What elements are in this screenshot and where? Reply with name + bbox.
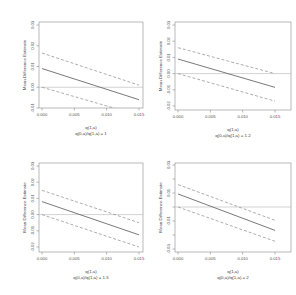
confidence-bound-line xyxy=(42,53,139,85)
y-axis-label: Mean Difference Estimate xyxy=(22,39,27,90)
x-tick-label: 0.015 xyxy=(270,114,281,119)
confidence-bound-line xyxy=(178,48,275,74)
x-tick-label: 0.005 xyxy=(69,112,80,117)
y-tick-label: 0.03 xyxy=(30,161,35,170)
y-tick-label: -0.01 xyxy=(166,216,171,226)
x-tick-label: 0.000 xyxy=(37,112,48,117)
x-tick-label: 0.015 xyxy=(134,112,145,117)
y-tick-label: 0.01 xyxy=(166,188,171,197)
x-tick-label: 0.005 xyxy=(205,256,216,261)
y-tick-label: 0.01 xyxy=(30,194,35,203)
series-lines xyxy=(178,185,275,242)
panel-subtitle: q(0,a)/q(1,a) = 1.5 xyxy=(73,275,109,280)
figure-grid: 0.030.020.010.00-0.01 0.0000.0050.0100.0… xyxy=(0,0,296,295)
x-tick-label: 0.000 xyxy=(173,114,184,119)
y-tick-label: 0.02 xyxy=(30,41,35,50)
x-tick-label: 0.000 xyxy=(37,256,48,261)
y-tick-label: 0.02 xyxy=(166,36,171,45)
panel-bottom-left: 0.030.020.010.00-0.01-0.02 0.0000.0050.0… xyxy=(22,161,145,280)
y-axis: 0.030.01-0.01-0.03 xyxy=(166,160,175,254)
y-axis-label: Mean Difference Estimate xyxy=(158,182,163,233)
y-tick-label: 0.01 xyxy=(166,53,171,62)
y-tick-label: -0.03 xyxy=(166,244,171,254)
series-lines xyxy=(178,48,275,101)
y-axis-label: Mean Difference Estimate xyxy=(158,40,163,91)
x-axis: 0.0000.0050.0100.015 xyxy=(37,108,145,117)
estimate-line xyxy=(178,59,275,87)
panel-bottom-right: 0.030.01-0.01-0.03 0.0000.0050.0100.015 … xyxy=(158,160,291,280)
x-tick-label: 0.015 xyxy=(270,256,281,261)
x-tick-label: 0.005 xyxy=(205,114,216,119)
x-axis-label: q(1,a) xyxy=(227,269,239,274)
y-tick-label: 0.03 xyxy=(166,160,171,169)
series-lines xyxy=(42,190,139,247)
plot-frame xyxy=(175,22,291,110)
x-tick-label: 0.015 xyxy=(134,256,145,261)
x-axis-label: q(1,a) xyxy=(85,269,97,274)
y-tick-label: -0.01 xyxy=(30,103,35,113)
x-tick-label: 0.010 xyxy=(237,114,248,119)
plot-frame xyxy=(175,163,291,252)
y-tick-label: -0.02 xyxy=(166,101,171,111)
x-axis-label: q(1,a) xyxy=(227,127,239,132)
estimate-line xyxy=(42,69,139,100)
x-axis-label: q(1,a) xyxy=(85,125,97,130)
y-tick-label: 0.03 xyxy=(30,20,35,29)
y-axis: 0.030.020.010.00-0.01-0.02 xyxy=(166,20,175,111)
panel-subtitle: q(0,a)/q(1,a) = 1 xyxy=(75,131,107,136)
x-tick-label: 0.010 xyxy=(101,112,112,117)
plot-frame xyxy=(39,22,143,108)
panel-subtitle: q(0,a)/q(1,a) = 2 xyxy=(217,275,249,280)
panel-subtitle: q(0,a)/q(1,a) = 1.2 xyxy=(215,133,251,138)
chart-canvas: 0.030.020.010.00-0.01 0.0000.0050.0100.0… xyxy=(0,0,296,295)
confidence-bound-line xyxy=(42,215,139,247)
y-tick-label: -0.02 xyxy=(30,242,35,252)
series-lines xyxy=(42,53,139,115)
y-tick-label: -0.01 xyxy=(166,84,171,94)
y-tick-label: 0.03 xyxy=(166,20,171,29)
y-tick-label: -0.01 xyxy=(30,225,35,235)
plot-frame xyxy=(39,163,143,252)
confidence-bound-line xyxy=(178,74,275,102)
confidence-bound-line xyxy=(42,87,139,115)
x-axis: 0.0000.0050.0100.015 xyxy=(37,252,145,261)
y-axis: 0.030.020.010.00-0.01-0.02 xyxy=(30,161,39,252)
x-tick-label: 0.010 xyxy=(237,256,248,261)
x-tick-label: 0.000 xyxy=(173,256,184,261)
y-axis: 0.030.020.010.00-0.01 xyxy=(30,20,39,113)
y-tick-label: 0.01 xyxy=(30,62,35,71)
y-tick-label: 0.02 xyxy=(30,177,35,186)
x-axis: 0.0000.0050.0100.015 xyxy=(173,252,281,261)
y-tick-label: 0.00 xyxy=(166,69,171,78)
y-tick-label: 0.00 xyxy=(30,83,35,92)
x-axis: 0.0000.0050.0100.015 xyxy=(173,110,281,119)
panel-top-right: 0.030.020.010.00-0.01-0.02 0.0000.0050.0… xyxy=(158,20,291,138)
y-tick-label: 0.00 xyxy=(30,210,35,219)
panel-top-left: 0.030.020.010.00-0.01 0.0000.0050.0100.0… xyxy=(22,20,145,136)
x-tick-label: 0.010 xyxy=(101,256,112,261)
x-tick-label: 0.005 xyxy=(69,256,80,261)
confidence-bound-line xyxy=(178,185,275,221)
y-axis-label: Mean Difference Estimate xyxy=(22,182,27,233)
